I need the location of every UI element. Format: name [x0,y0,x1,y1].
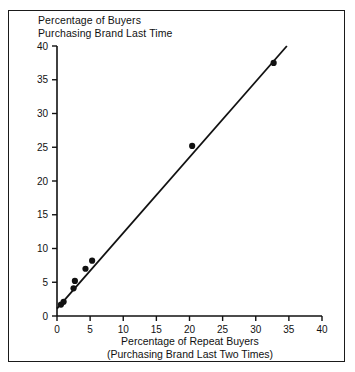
x-tick-label-25: 25 [217,324,229,335]
regression-line [57,46,287,309]
data-point [72,278,78,284]
x-axis-title-line-2: (Purchasing Brand Last Two Times) [107,348,273,360]
data-point [89,258,95,264]
x-axis-tick-labels: 0510152025303540 [54,324,328,335]
data-point [82,266,88,272]
y-tick-label-25: 25 [37,142,49,153]
figure-root: Percentage of Buyers Purchasing Brand La… [0,0,355,372]
y-tick-label-20: 20 [37,176,49,187]
data-point [271,60,277,66]
x-tick-label-35: 35 [283,324,295,335]
data-point [61,299,67,305]
y-tick-label-15: 15 [37,209,49,220]
data-point [189,143,195,149]
data-point [70,285,76,291]
y-tick-label-5: 5 [42,277,48,288]
x-tick-label-40: 40 [316,324,328,335]
x-axis-title-line-1: Percentage of Repeat Buyers [121,335,259,347]
x-tick-label-30: 30 [250,324,262,335]
x-axis: 0510152025303540 [54,316,328,335]
x-tick-label-10: 10 [118,324,130,335]
scatter-plot-canvas: 0510152025303540 0510152025303540 Percen… [0,0,355,372]
y-axis-tick-labels: 0510152025303540 [37,41,49,322]
fit-line [57,46,287,309]
x-tick-label-15: 15 [151,324,163,335]
y-tick-label-40: 40 [37,41,49,52]
y-axis: 0510152025303540 [37,41,57,322]
y-tick-label-10: 10 [37,243,49,254]
x-tick-label-5: 5 [87,324,93,335]
x-tick-label-20: 20 [184,324,196,335]
y-tick-label-35: 35 [37,74,49,85]
x-tick-label-0: 0 [54,324,60,335]
y-tick-label-30: 30 [37,108,49,119]
y-tick-label-0: 0 [42,311,48,322]
